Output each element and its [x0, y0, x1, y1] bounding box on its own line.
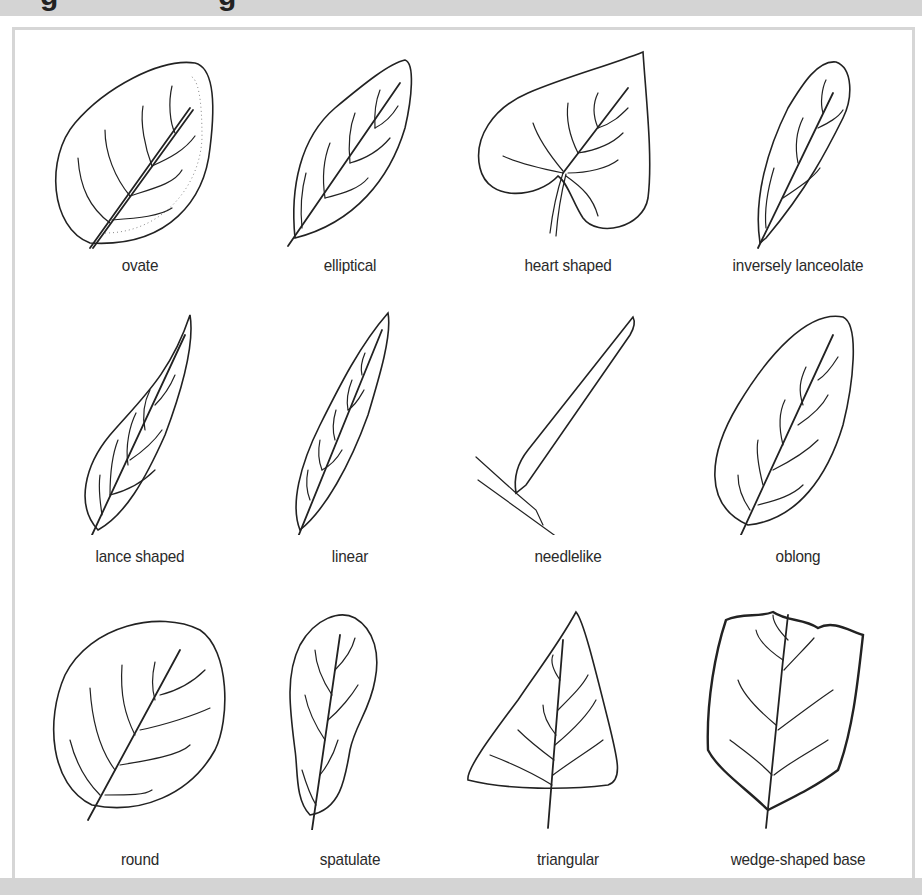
leaf-cell-ovate: ovate	[30, 38, 250, 308]
leaf-label: triangular	[469, 850, 667, 870]
leaf-cell-spatulate: spatulate	[240, 600, 460, 870]
leaf-cell-round: round	[30, 600, 250, 870]
leaf-label: wedge-shaped base	[699, 850, 897, 870]
leaf-cell-elliptical: elliptical	[240, 38, 460, 308]
leaf-cell-oblong: oblong	[688, 305, 908, 575]
triangular-leaf-icon	[458, 600, 678, 830]
leaf-cell-inversely-lanceolate: inversely lanceolate	[688, 38, 908, 308]
leaf-label: ovate	[41, 256, 239, 276]
elliptical-leaf-icon	[240, 38, 460, 268]
wedge-shaped-base-leaf-icon	[688, 600, 908, 830]
leaf-cell-heart-shaped: heart shaped	[458, 38, 678, 308]
header-band: g g	[0, 0, 922, 16]
leaf-label: oblong	[699, 547, 897, 567]
leaf-label: inversely lanceolate	[699, 256, 897, 276]
leaf-label: spatulate	[251, 850, 449, 870]
leaf-cell-wedge-shaped-base: wedge-shaped base	[688, 600, 908, 870]
leaf-label: round	[41, 850, 239, 870]
leaf-label: linear	[251, 547, 449, 567]
leaf-cell-needlelike: needlelike	[458, 305, 678, 575]
needlelike-leaf-icon	[458, 305, 678, 535]
leaf-label: heart shaped	[469, 256, 667, 276]
round-leaf-icon	[30, 600, 250, 830]
ovate-leaf-icon	[30, 38, 250, 268]
oblong-leaf-icon	[688, 305, 908, 535]
heart-shaped-leaf-icon	[458, 38, 678, 268]
leaf-label: lance shaped	[41, 547, 239, 567]
leaf-label: needlelike	[469, 547, 667, 567]
linear-leaf-icon	[240, 305, 460, 535]
lance-shaped-leaf-icon	[30, 305, 250, 535]
footer-band	[0, 878, 922, 895]
leaf-cell-lance-shaped: lance shaped	[30, 305, 250, 575]
leaf-cell-linear: linear	[240, 305, 460, 575]
header-title-fragment: g	[40, 0, 58, 12]
header-title-fragment: g	[218, 0, 236, 12]
inversely-lanceolate-leaf-icon	[688, 38, 908, 268]
leaf-cell-triangular: triangular	[458, 600, 678, 870]
spatulate-leaf-icon	[240, 600, 460, 830]
leaf-label: elliptical	[251, 256, 449, 276]
